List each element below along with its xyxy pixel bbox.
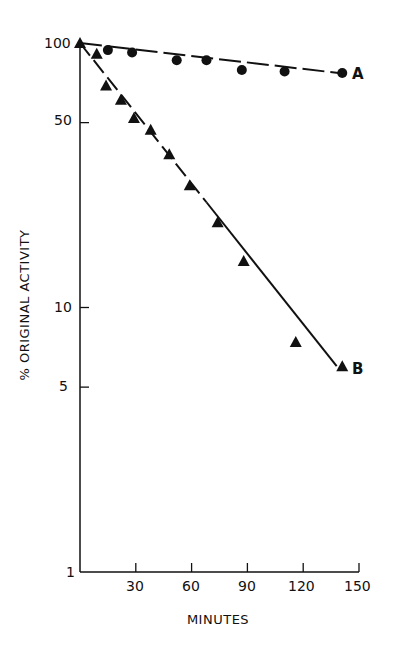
series-a-point [237,65,247,75]
series-a-point [103,45,113,55]
x-tick-60: 60 [182,578,200,594]
series-a-point [127,48,137,58]
series-b-point [238,255,250,266]
y-tick-5: 5 [59,378,68,394]
series-a-point [337,68,347,78]
y-tick-50: 50 [54,112,72,128]
series-a-point [172,55,182,65]
y-tick-100: 100 [44,35,71,51]
x-tick-150: 150 [344,578,371,594]
series-b-line-dashed [80,43,206,202]
x-tick-90: 90 [238,578,256,594]
series-b-point [91,48,103,59]
y-tick-10: 10 [54,299,72,315]
series-b-line-solid [206,202,336,366]
series-b-point [184,179,196,190]
x-tick-30: 30 [126,578,144,594]
series-a-label: A [352,65,364,83]
y-axis-label: % ORIGINAL ACTIVITY [17,229,32,380]
series-b-label: B [352,360,363,378]
plot-area [0,0,394,653]
y-tick-1: 1 [66,564,75,580]
series-b-point [145,124,157,135]
series-a-point [280,67,290,77]
x-axis-label: MINUTES [187,612,249,627]
x-tick-120: 120 [288,578,315,594]
series-b-point [336,360,348,371]
series-b-point [290,336,302,347]
series-a-point [201,55,211,65]
